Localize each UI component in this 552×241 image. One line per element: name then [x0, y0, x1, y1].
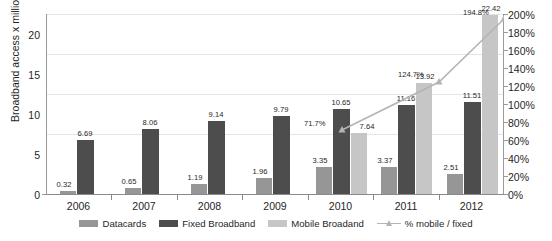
bar-label-fixed-2007: 8.06 [136, 119, 164, 127]
legend-label-datacards: Datacards [102, 218, 146, 229]
bar-datacards-2011[interactable] [381, 167, 397, 194]
bar-label-datacards-2008: 1.19 [181, 174, 209, 182]
legend-item-fixed-broadband[interactable]: Fixed Broadband [159, 218, 255, 229]
x-axis-line [46, 194, 504, 195]
bar-datacards-2010[interactable] [316, 167, 332, 194]
bar-group-2011: 3.37 11.16 13.92 [373, 14, 439, 194]
bar-datacards-2006[interactable] [60, 191, 76, 194]
bar-datacards-2007[interactable] [125, 188, 141, 194]
bar-label-fixed-2009: 9.79 [267, 106, 295, 114]
x-tick-label-2007: 2007 [111, 200, 177, 212]
legend-swatch-fixed-broadband-icon [159, 220, 178, 227]
bar-label-mobile-2012: 22.42 [477, 5, 505, 13]
x-tick-label-2012: 2012 [439, 200, 504, 212]
y2-tick-label-2: 40% [508, 154, 548, 164]
bar-fixed-2011[interactable] [398, 105, 415, 194]
legend-swatch-datacards-icon [79, 220, 98, 227]
bar-datacards-2008[interactable] [191, 184, 207, 194]
y2-tick-label-7: 140% [508, 64, 548, 74]
bar-label-mobile-2011: 13.92 [411, 73, 439, 81]
x-tick-label-2006: 2006 [46, 200, 111, 212]
y2-tick-label-4: 80% [508, 118, 548, 128]
legend-item-mobile-broadband[interactable]: Mobile Broadand [268, 218, 364, 229]
y2-tick-mark-0 [504, 194, 508, 195]
y2-tick-label-9: 180% [508, 28, 548, 38]
bar-fixed-2007[interactable] [142, 129, 159, 194]
plot-area: 0.32 6.69 0.65 8.06 1.19 9.14 1. [46, 14, 504, 195]
bar-label-datacards-2009: 1.96 [246, 168, 274, 176]
bar-label-fixed-2008: 9.14 [202, 111, 230, 119]
bar-fixed-2012[interactable] [464, 102, 481, 194]
bar-fixed-2008[interactable] [208, 121, 225, 194]
legend-label-percent-mobile-fixed: % mobile / fixed [405, 218, 473, 229]
y-tick-label-3: 15 [14, 70, 40, 80]
y-tick-label-1: 5 [14, 150, 40, 160]
bar-mobile-2012[interactable] [482, 15, 498, 194]
bar-label-datacards-2007: 0.65 [115, 178, 143, 186]
y2-tick-mark-4 [504, 122, 508, 123]
legend-item-percent-mobile-fixed[interactable]: % mobile / fixed [377, 218, 473, 229]
bar-group-2009: 1.96 9.79 [242, 14, 308, 194]
bar-label-datacards-2010: 3.35 [306, 157, 334, 165]
bar-label-datacards-2012: 2.51 [437, 164, 465, 172]
y-tick-label-4: 20 [14, 30, 40, 40]
y2-tick-mark-5 [504, 104, 508, 105]
y2-tick-mark-1 [504, 176, 508, 177]
bar-label-fixed-2012: 11.51 [458, 92, 486, 100]
chart-legend: Datacards Fixed Broadband Mobile Broadan… [0, 218, 552, 229]
y2-tick-label-5: 100% [508, 100, 548, 110]
y-tick-label-0: 0 [14, 190, 40, 200]
x-tick-label-2010: 2010 [308, 200, 373, 212]
x-tick-label-2008: 2008 [177, 200, 242, 212]
y2-tick-label-3: 60% [508, 136, 548, 146]
y2-tick-label-10: 200% [508, 10, 548, 20]
legend-swatch-line-marker-icon [377, 220, 401, 227]
x-tick-label-2011: 2011 [373, 200, 439, 212]
bar-mobile-2010[interactable] [351, 133, 367, 194]
legend-swatch-mobile-broadband-icon [268, 220, 287, 227]
bar-group-2010: 3.35 10.65 7.64 [308, 14, 373, 194]
legend-label-fixed-broadband: Fixed Broadband [182, 218, 255, 229]
bar-fixed-2006[interactable] [77, 140, 94, 194]
bar-label-datacards-2006: 0.32 [50, 181, 78, 189]
bar-group-2007: 0.65 8.06 [111, 14, 177, 194]
y2-tick-mark-10 [504, 14, 508, 15]
y2-tick-mark-2 [504, 158, 508, 159]
legend-label-mobile-broadband: Mobile Broadand [291, 218, 364, 229]
bar-group-2006: 0.32 6.69 [46, 14, 111, 194]
bar-fixed-2009[interactable] [273, 116, 290, 194]
bar-datacards-2012[interactable] [447, 174, 463, 194]
y2-tick-mark-7 [504, 68, 508, 69]
y2-tick-mark-8 [504, 50, 508, 51]
bar-label-fixed-2011: 11.16 [392, 95, 420, 103]
y2-tick-label-6: 120% [508, 82, 548, 92]
broadband-access-chart: Broadband access x million 0 5 10 15 20 … [0, 0, 552, 241]
bar-label-datacards-2011: 3.37 [371, 157, 399, 165]
y2-tick-label-8: 160% [508, 46, 548, 56]
bar-datacards-2009[interactable] [256, 178, 272, 194]
bar-label-fixed-2010: 10.65 [327, 99, 355, 107]
y2-tick-label-1: 20% [508, 172, 548, 182]
y2-tick-mark-9 [504, 32, 508, 33]
x-tick-label-2009: 2009 [242, 200, 308, 212]
bar-label-fixed-2006: 6.69 [71, 130, 99, 138]
y2-tick-mark-3 [504, 140, 508, 141]
bar-group-2012: 2.51 11.51 22.42 [439, 14, 504, 194]
y-tick-label-2: 10 [14, 110, 40, 120]
bar-fixed-2010[interactable] [333, 109, 350, 194]
legend-item-datacards[interactable]: Datacards [79, 218, 146, 229]
bar-group-2008: 1.19 9.14 [177, 14, 242, 194]
y2-tick-label-0: 0% [508, 190, 548, 200]
y2-tick-mark-6 [504, 86, 508, 87]
